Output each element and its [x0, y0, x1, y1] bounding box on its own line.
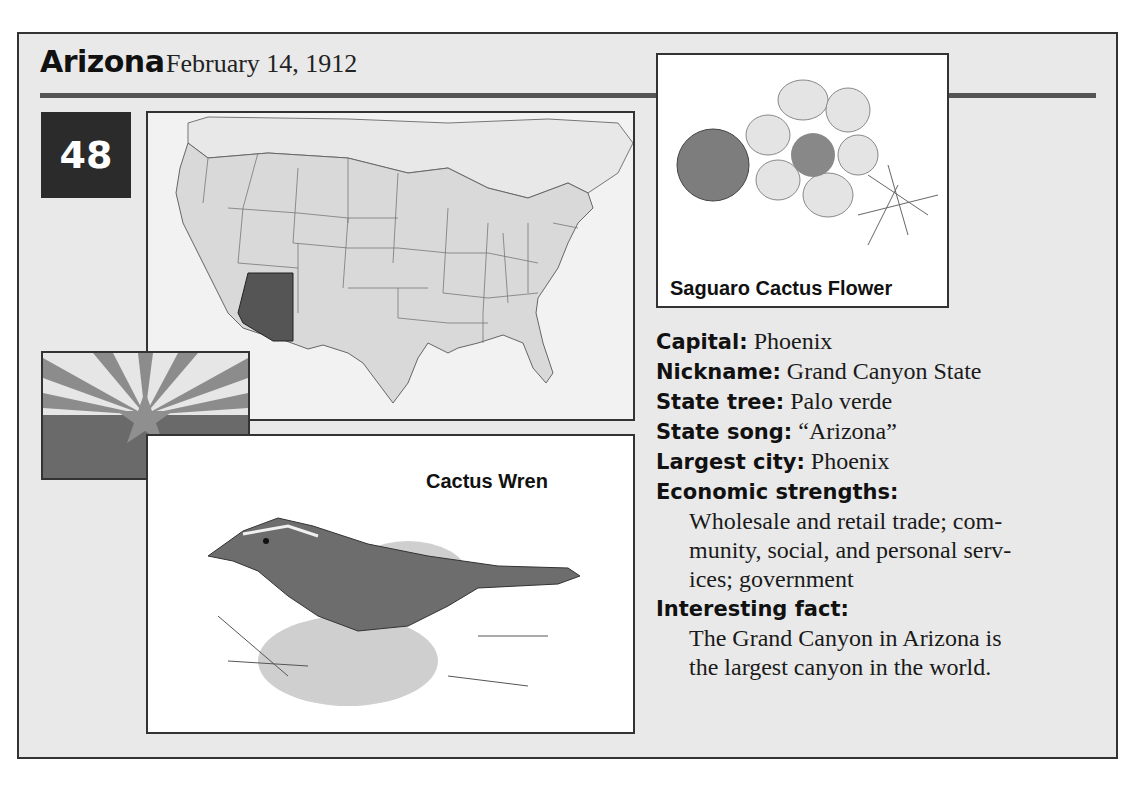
cactus-wren-image: Cactus Wren — [146, 434, 635, 734]
fact-label: Nickname: — [656, 360, 781, 384]
fact-value: Grand Canyon State — [787, 358, 982, 384]
fact-value: Phoenix — [754, 328, 833, 354]
fact-label: Largest city: — [656, 450, 805, 474]
fact-largest-city: Largest city: Phoenix — [656, 447, 1096, 477]
state-name: Arizona — [40, 44, 164, 79]
fact-label: Economic strengths: — [656, 480, 898, 504]
bird-icon — [148, 436, 635, 734]
fact-label: State tree: — [656, 390, 784, 414]
fact-value: “Arizona” — [798, 418, 897, 444]
statehood-order-badge: 48 — [41, 112, 131, 198]
bird-caption: Cactus Wren — [426, 470, 548, 493]
fact-value: Phoenix — [811, 448, 890, 474]
flower-caption: Saguaro Cactus Flower — [670, 277, 892, 300]
fact-value: Palo verde — [790, 388, 892, 414]
fact-value-line: the largest canyon in the world. — [656, 653, 1096, 682]
flower-icon — [658, 55, 947, 265]
fact-value-line: The Grand Canyon in Arizona is — [656, 624, 1096, 653]
fact-value-line: Wholesale and retail trade; com- — [656, 507, 1096, 536]
fact-economic-strengths: Economic strengths: — [656, 477, 1096, 507]
saguaro-flower-image: Saguaro Cactus Flower — [656, 53, 949, 308]
header-rule-left — [40, 93, 658, 98]
fact-label: Interesting fact: — [656, 597, 849, 621]
state-facts: Capital: Phoenix Nickname: Grand Canyon … — [656, 327, 1096, 682]
fact-interesting-fact: Interesting fact: — [656, 594, 1096, 624]
fact-capital: Capital: Phoenix — [656, 327, 1096, 357]
fact-value-line: ices; government — [656, 565, 1096, 594]
header-rule-right — [948, 93, 1096, 98]
fact-label: State song: — [656, 420, 792, 444]
statehood-date: February 14, 1912 — [166, 49, 357, 79]
fact-value-line: munity, social, and personal serv- — [656, 536, 1096, 565]
fact-label: Capital: — [656, 330, 748, 354]
fact-nickname: Nickname: Grand Canyon State — [656, 357, 1096, 387]
fact-state-tree: State tree: Palo verde — [656, 387, 1096, 417]
fact-state-song: State song: “Arizona” — [656, 417, 1096, 447]
